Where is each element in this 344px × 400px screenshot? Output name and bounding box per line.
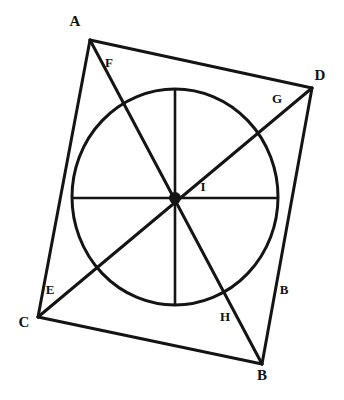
center-point-I-dot xyxy=(169,192,181,204)
edge-B-C xyxy=(38,317,262,364)
geometry-figure: A D B C F G E H I B xyxy=(0,0,344,400)
geometry-canvas: A D B C F G E H I B xyxy=(0,0,344,400)
label-D: D xyxy=(315,67,326,83)
edge-D-B xyxy=(262,88,312,364)
label-A: A xyxy=(70,13,81,29)
label-I: I xyxy=(200,179,205,194)
label-B: B xyxy=(257,367,267,383)
label-H: H xyxy=(220,309,230,324)
label-F: F xyxy=(105,55,113,70)
label-E: E xyxy=(46,282,55,297)
edge-A-D xyxy=(90,40,312,88)
label-C: C xyxy=(19,314,30,330)
label-G: G xyxy=(272,91,282,106)
edge-C-A xyxy=(38,40,90,317)
label-B-side: B xyxy=(280,282,289,297)
